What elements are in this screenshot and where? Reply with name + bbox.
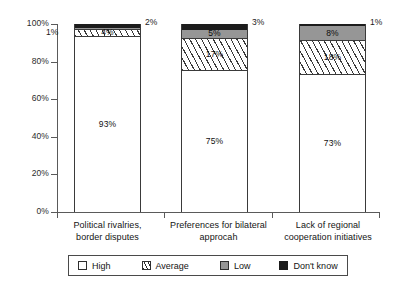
legend-item-low[interactable]: Low: [220, 261, 251, 271]
segment-value: 18%: [323, 53, 342, 62]
segment-value: 4%: [100, 28, 115, 37]
hatched-square-icon: [142, 261, 151, 270]
x-axis-tick-3: [379, 212, 380, 218]
segment-value: 73%: [323, 139, 342, 148]
segment-high: 73%: [300, 75, 365, 212]
category-label-line2: approcah: [166, 232, 271, 244]
bar-lack-of-cooperation: 8% 18% 73%: [299, 24, 366, 212]
segment-value: 93%: [98, 120, 117, 129]
y-axis-line: [57, 24, 58, 213]
x-axis-tick-0: [57, 212, 58, 218]
x-axis-category-2: Lack of regional cooperation initiatives: [277, 220, 379, 243]
y-axis-label-80: 80%: [0, 57, 49, 66]
y-axis-label-0: 0%: [0, 207, 49, 216]
segment-low: 5%: [182, 30, 247, 39]
white-square-icon: [78, 261, 87, 270]
y-axis-tick-20: [51, 174, 58, 175]
stacked-bar-chart: 100% 80% 60% 40% 20% 0% 4% 93% 1% 2%: [0, 0, 409, 286]
y-axis-label-text: 40%: [3, 132, 49, 141]
segment-high: 75%: [182, 71, 247, 212]
chart-legend: High Average Low Don't know: [68, 255, 348, 276]
legend-item-dont-know[interactable]: Don't know: [279, 261, 337, 271]
y-axis-label-text: 80%: [3, 57, 49, 66]
y-axis-label-text: 0%: [3, 207, 49, 216]
category-label-line2: cooperation initiatives: [277, 232, 379, 244]
legend-label: Don't know: [293, 261, 337, 271]
segment-value: 5%: [207, 29, 222, 38]
segment-low: 8%: [300, 26, 365, 41]
black-square-icon: [279, 261, 288, 270]
y-axis-tick-80: [51, 62, 58, 63]
x-axis-tick-1: [164, 212, 165, 218]
legend-item-high[interactable]: High: [78, 261, 111, 271]
legend-label: High: [92, 261, 111, 271]
gray-square-icon: [220, 261, 229, 270]
bar-political-rivalries: 4% 93%: [74, 24, 141, 212]
bar-bilateral-preferences: 5% 17% 75%: [181, 24, 248, 212]
callout-bar2-dont-know: 3%: [252, 18, 265, 27]
category-label-line1: Political rivalries,: [62, 220, 153, 232]
x-axis-category-0: Political rivalries, border disputes: [62, 220, 153, 243]
callout-bar1-dont-know: 2%: [145, 18, 158, 27]
y-axis-label-text: 60%: [3, 94, 49, 103]
x-axis-category-1: Preferences for bilateral approcah: [166, 220, 271, 243]
y-axis-label-20: 20%: [0, 169, 49, 178]
category-label-line2: border disputes: [62, 232, 153, 244]
y-axis-label-40: 40%: [0, 132, 49, 141]
segment-high: 93%: [75, 37, 140, 212]
x-axis-tick-2: [272, 212, 273, 218]
segment-average: 18%: [300, 41, 365, 75]
y-axis-label-100: 100%: [0, 19, 49, 28]
segment-value: 17%: [205, 50, 224, 59]
segment-average: 17%: [182, 39, 247, 71]
y-axis-tick-100: [51, 24, 58, 25]
category-label-line1: Preferences for bilateral: [166, 220, 271, 232]
legend-label: Average: [156, 261, 189, 271]
y-axis-tick-60: [51, 99, 58, 100]
segment-value: 75%: [205, 137, 224, 146]
legend-item-average[interactable]: Average: [142, 261, 189, 271]
segment-average: 4%: [75, 30, 140, 38]
callout-bar3-dont-know: 1%: [370, 18, 383, 27]
y-axis-label-text: 100%: [3, 19, 49, 28]
x-axis-line: [57, 212, 380, 213]
category-label-line1: Lack of regional: [277, 220, 379, 232]
y-axis-label-text: 20%: [3, 169, 49, 178]
y-axis-label-60: 60%: [0, 94, 49, 103]
legend-label: Low: [234, 261, 251, 271]
callout-bar1-low: 1%: [46, 28, 59, 37]
y-axis-tick-40: [51, 137, 58, 138]
segment-value: 8%: [325, 29, 340, 38]
